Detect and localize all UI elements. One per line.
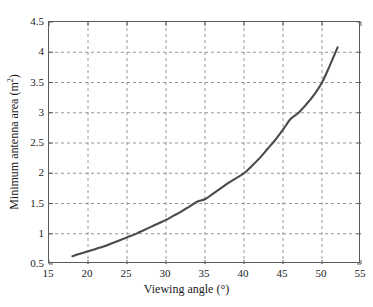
y-tick-label: 2.5 — [14, 137, 44, 148]
y-tick-label: 4.5 — [14, 16, 44, 27]
x-axis-label: Viewing angle (°) — [0, 283, 373, 295]
data-series-line — [72, 47, 337, 256]
plot-area — [48, 21, 360, 263]
y-tick-label: 1 — [14, 227, 44, 238]
x-tick-label: 55 — [355, 268, 366, 279]
y-tick-label: 0.5 — [14, 258, 44, 269]
y-tick-label: 2 — [14, 167, 44, 178]
y-tick-label: 1.5 — [14, 197, 44, 208]
x-tick-label: 45 — [277, 268, 288, 279]
x-tick-label: 20 — [82, 268, 93, 279]
data-curve-layer — [49, 22, 359, 262]
x-tick-label: 15 — [43, 268, 54, 279]
x-tick-label: 40 — [238, 268, 249, 279]
x-tick-label: 30 — [160, 268, 171, 279]
x-tick-label: 35 — [199, 268, 210, 279]
y-tick-label: 3 — [14, 106, 44, 117]
x-tick-label: 50 — [316, 268, 327, 279]
y-tick-label: 4 — [14, 46, 44, 57]
x-tick-label: 25 — [121, 268, 132, 279]
y-tick-label: 3.5 — [14, 76, 44, 87]
chart-figure: Minimum antenna area (m2) 0.511.522.533.… — [0, 0, 373, 307]
